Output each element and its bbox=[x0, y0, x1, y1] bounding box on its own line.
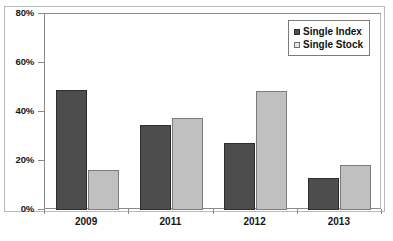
bar-2011-single-stock bbox=[172, 118, 203, 210]
bar-2013-single-stock bbox=[340, 165, 371, 210]
bar-2011-single-index bbox=[140, 125, 171, 210]
bar-2009-single-index bbox=[56, 90, 87, 210]
x-axis-tick bbox=[381, 209, 382, 214]
dark-square-swatch-icon bbox=[294, 29, 300, 35]
legend-item-single-stock[interactable]: Single Stock bbox=[294, 38, 363, 51]
x-axis-tick bbox=[44, 209, 45, 214]
bar-2012-single-stock bbox=[256, 91, 287, 210]
legend-item-single-index[interactable]: Single Index bbox=[294, 25, 363, 38]
light-square-swatch-icon bbox=[294, 42, 300, 48]
x-axis-label-2011: 2011 bbox=[135, 216, 205, 228]
bar-2012-single-index bbox=[224, 143, 255, 210]
legend-label: Single Stock bbox=[303, 39, 363, 50]
y-axis-label: 60% bbox=[0, 57, 34, 67]
bar-2013-single-index bbox=[308, 178, 339, 210]
x-axis-tick bbox=[128, 209, 129, 214]
chart-container: 0%20%40%60%80% 2009201120122013 Single I… bbox=[0, 0, 393, 241]
x-axis-tick bbox=[297, 209, 298, 214]
y-axis-label: 40% bbox=[0, 106, 34, 116]
y-axis-label: 20% bbox=[0, 155, 34, 165]
legend-label: Single Index bbox=[303, 26, 362, 37]
figure-caption bbox=[8, 228, 308, 239]
chart-legend[interactable]: Single Index Single Stock bbox=[288, 20, 370, 56]
y-axis-label: 80% bbox=[0, 8, 34, 18]
x-axis-label-2009: 2009 bbox=[51, 216, 121, 228]
bar-2009-single-stock bbox=[88, 170, 119, 210]
x-axis-label-2013: 2013 bbox=[304, 216, 374, 228]
x-axis-tick bbox=[213, 209, 214, 214]
x-axis-label-2012: 2012 bbox=[220, 216, 290, 228]
y-axis-label: 0% bbox=[0, 204, 34, 214]
